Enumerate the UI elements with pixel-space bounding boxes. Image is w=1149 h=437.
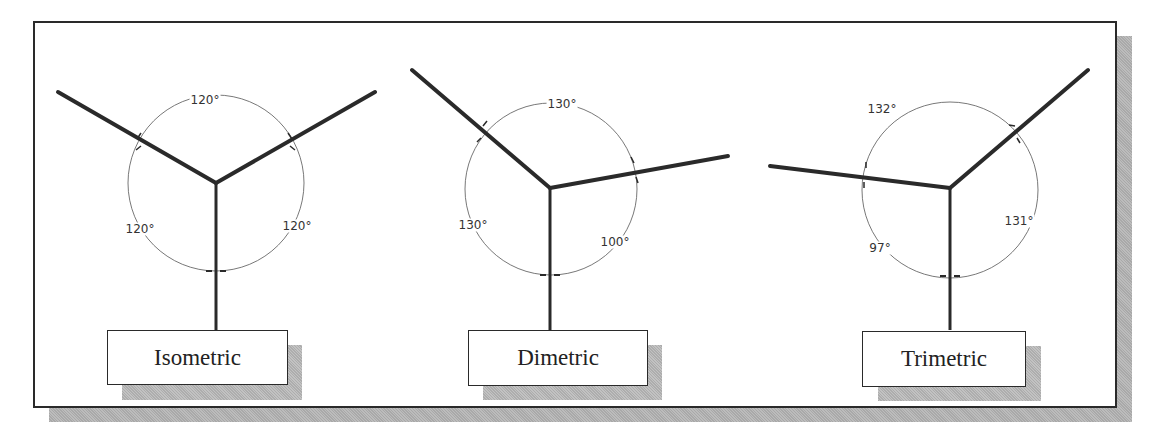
dimetric-label-box: Dimetric xyxy=(468,330,648,386)
isometric-angle-right: 120° xyxy=(282,220,313,233)
dimetric-left-axis xyxy=(412,70,550,188)
dimetric-label: Dimetric xyxy=(517,345,599,371)
dimetric-right-axis xyxy=(550,156,728,188)
dimetric-angle-left: 130° xyxy=(458,219,489,232)
isometric-panel xyxy=(58,92,375,330)
isometric-right-axis xyxy=(216,92,375,183)
dimetric-angle-right: 100° xyxy=(600,236,631,249)
isometric-angle-left: 120° xyxy=(125,223,156,236)
trimetric-label: Trimetric xyxy=(901,346,987,372)
diagram-canvas: 120° 120° 120° 130° 130° 100° 132° 97° 1… xyxy=(0,0,1149,437)
trimetric-left-axis xyxy=(770,166,950,188)
trimetric-angle-top: 132° xyxy=(867,103,898,116)
trimetric-label-box: Trimetric xyxy=(862,331,1026,387)
isometric-angle-top: 120° xyxy=(190,94,221,107)
isometric-label: Isometric xyxy=(154,345,241,371)
dimetric-angle-top: 130° xyxy=(547,98,578,111)
trimetric-right-axis xyxy=(950,70,1088,188)
trimetric-panel xyxy=(770,70,1088,330)
trimetric-angle-right: 131° xyxy=(1004,215,1035,228)
trimetric-angle-left: 97° xyxy=(868,242,891,255)
isometric-label-box: Isometric xyxy=(107,330,288,385)
